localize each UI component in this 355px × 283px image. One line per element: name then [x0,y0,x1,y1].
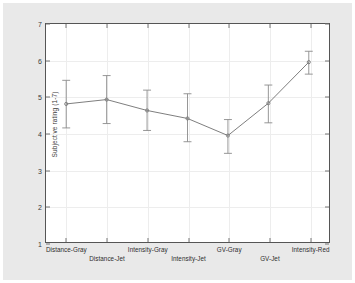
error-bar [305,51,313,74]
y-tick-label: 3 [38,167,42,174]
page-edge-top [0,0,355,3]
x-tick-label: GV-Gray [217,246,242,253]
y-tick-mark [46,134,50,135]
y-tick-label: 5 [38,94,42,101]
y-tick-mark [46,207,50,208]
x-tick-mark [188,238,189,242]
data-series-layer [46,24,329,242]
error-bar [264,85,272,123]
y-tick-mark [325,97,329,98]
y-tick-mark [46,97,50,98]
x-tick-mark [66,24,67,28]
plot-area: Subjective rating (1-7) 1234567Distance-… [45,23,330,243]
x-tick-mark [107,24,108,28]
x-tick-label: Intensity-Red [292,246,330,253]
y-tick-label: 4 [38,131,42,138]
y-tick-label: 7 [38,21,42,28]
x-tick-mark [229,24,230,28]
x-tick-mark [229,238,230,242]
y-tick-mark [325,207,329,208]
x-tick-mark [188,24,189,28]
x-tick-mark [147,238,148,242]
error-bar [143,90,151,130]
x-tick-label: Intensity-Jet [171,255,206,262]
x-tick-mark [66,238,67,242]
x-tick-mark [310,238,311,242]
x-tick-mark [147,24,148,28]
y-tick-mark [325,24,329,25]
y-tick-mark [46,24,50,25]
y-tick-mark [325,244,329,245]
y-tick-label: 1 [38,241,42,248]
x-tick-mark [269,24,270,28]
y-tick-mark [46,170,50,171]
error-bar [62,80,70,128]
y-tick-label: 2 [38,204,42,211]
page-edge-left [0,0,3,283]
x-tick-label: Distance-Jet [89,255,125,262]
y-tick-mark [325,170,329,171]
x-tick-label: GV-Jet [260,255,280,262]
x-tick-label: Distance-Gray [46,246,87,253]
y-tick-mark [325,60,329,61]
y-tick-label: 6 [38,57,42,64]
y-tick-mark [46,244,50,245]
x-tick-mark [269,238,270,242]
y-tick-mark [325,134,329,135]
y-tick-mark [46,60,50,61]
error-bar [224,120,232,154]
x-tick-mark [310,24,311,28]
x-tick-label: Intensity-Gray [128,246,168,253]
x-tick-mark [107,238,108,242]
chart-figure: Subjective rating (1-7) 1234567Distance-… [0,0,355,283]
